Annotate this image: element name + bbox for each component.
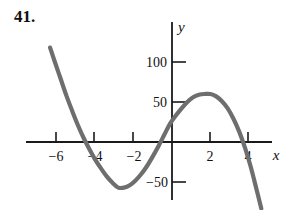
cubic-function-graph: −6 −4 −2 2 4 100 50 −50 y x — [0, 0, 292, 210]
figure-container: 41. −6 −4 −2 2 4 100 50 −50 y — [0, 0, 292, 210]
y-axis-ticks — [172, 62, 186, 182]
x-axis-label: x — [272, 147, 280, 163]
y-tick-label-100: 100 — [146, 55, 167, 70]
x-tick-label--2: −2 — [127, 149, 142, 164]
x-tick-label-2: 2 — [207, 149, 214, 164]
y-tick-label--50: −50 — [146, 175, 168, 190]
y-axis-label: y — [176, 19, 185, 35]
x-tick-label--6: −6 — [49, 149, 64, 164]
y-tick-label-50: 50 — [153, 95, 167, 110]
